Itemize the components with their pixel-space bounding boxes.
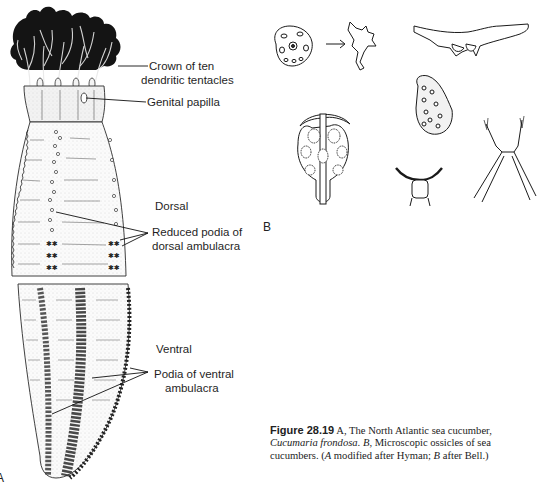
panel-letter-a: A: [0, 471, 4, 485]
label-ventral-podia-line2: ambulacra: [165, 382, 219, 395]
label-ventral-podia-line1: Podia of ventral: [154, 368, 234, 381]
svg-text:✱✱: ✱✱: [46, 252, 58, 260]
label-genital-papilla: Genital papilla: [147, 96, 220, 109]
tentacle-crown: [10, 7, 120, 90]
panel-letter-b: B: [263, 220, 271, 234]
ossicle-c-shaped: [396, 168, 442, 206]
figure-caption: Figure 28.19 A, The North Atlantic sea c…: [270, 424, 540, 462]
caption-text: modified after Hyman;: [331, 450, 433, 461]
ossicle-x-spiny: [474, 116, 536, 202]
ventral-body: [18, 284, 129, 478]
svg-text:✱✱: ✱✱: [108, 252, 120, 260]
arrow-icon: [326, 40, 345, 48]
ossicle-anchor-plate: [298, 114, 350, 204]
ossicle-perforated-plate: [275, 26, 312, 66]
label-ventral: Ventral: [156, 343, 192, 356]
svg-text:✱✱: ✱✱: [46, 240, 58, 248]
label-reduced-podia-line2: dorsal ambulacra: [152, 240, 240, 253]
caption-text: A, The North Atlantic sea cucumber,: [334, 425, 492, 436]
label-dorsal: Dorsal: [155, 200, 188, 213]
label-reduced-podia-line1: Reduced podia of: [152, 226, 242, 239]
svg-text:✱✱: ✱✱: [108, 240, 120, 248]
label-crown-line2: dendritic tentacles: [141, 74, 234, 87]
dorsal-body: ✱✱✱✱✱✱ ✱✱✱✱✱✱: [12, 122, 126, 276]
label-crown-line1: Crown of ten: [149, 60, 214, 73]
caption-text: after Bell.): [440, 450, 489, 461]
ossicles: [275, 22, 536, 206]
ossicle-perforated-oval-plate: [416, 75, 452, 134]
figure-number: Figure 28.19: [270, 424, 334, 436]
ossicle-branched-fragment: [348, 22, 376, 70]
collar: [24, 86, 105, 122]
species-name: Cucumaria frondosa: [270, 437, 358, 448]
svg-text:✱✱: ✱✱: [46, 264, 58, 272]
svg-text:✱✱: ✱✱: [108, 264, 120, 272]
